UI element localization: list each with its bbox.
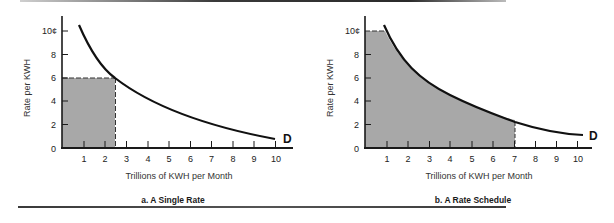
chart-a-ytick-4: 4: [51, 96, 56, 106]
chart-b-xtick-5: 5: [469, 154, 474, 164]
chart-b-xtick-7: 7: [512, 154, 517, 164]
chart-b-xtick-10: 10: [573, 154, 583, 164]
chart-b-ytick-2: 2: [354, 120, 359, 130]
chart-b-xtick-3: 3: [427, 154, 432, 164]
chart-a-xtick-8: 8: [230, 154, 235, 164]
chart-b-x-axis-title: Trillions of KWH per Month: [425, 171, 532, 181]
chart-b-xtick-1: 1: [384, 154, 389, 164]
chart-a-x-tick-labels: 1 2 3 4 5 6 7 8 9 10: [81, 154, 281, 164]
chart-a-xtick-3: 3: [124, 154, 129, 164]
figure-canvas: 10¢ 8 6 4 2 0 1 2 3 4 5 6 7 8 9 10 D Rat…: [0, 0, 614, 223]
chart-a-curve-label: D: [283, 132, 292, 146]
chart-a-xtick-6: 6: [188, 154, 193, 164]
chart-a-xtick-4: 4: [145, 154, 150, 164]
chart-a-ytick-0: 0: [51, 144, 56, 154]
chart-b-xtick-6: 6: [490, 154, 495, 164]
chart-a-xtick-2: 2: [102, 154, 107, 164]
chart-b-caption: b. A Rate Schedule: [435, 195, 512, 205]
chart-b-x-tick-labels: 1 2 3 4 5 6 7 8 9 10: [384, 154, 583, 164]
chart-a-ytick-2: 2: [51, 120, 56, 130]
bottom-rule: [18, 206, 506, 208]
chart-a-ytick-6: 6: [51, 73, 56, 83]
chart-a-xtick-5: 5: [166, 154, 171, 164]
chart-b-y-axis-title: Rate per KWH: [325, 59, 335, 117]
chart-a-caption: a. A Single Rate: [141, 195, 205, 205]
chart-b-ytick-10: 10¢: [345, 26, 360, 36]
chart-a-xtick-7: 7: [209, 154, 214, 164]
chart-a-x-axis-title: Trillions of KWH per Month: [125, 171, 232, 181]
chart-b-xtick-4: 4: [447, 154, 452, 164]
chart-b-xtick-2: 2: [405, 154, 410, 164]
chart-b-ytick-6: 6: [354, 73, 359, 83]
chart-a-shaded-revenue: [62, 78, 115, 148]
chart-b-curve-label: D: [589, 129, 598, 143]
chart-b-ytick-8: 8: [354, 50, 359, 60]
chart-b-ytick-4: 4: [354, 96, 359, 106]
chart-a-xtick-9: 9: [251, 154, 256, 164]
chart-b-xtick-8: 8: [533, 154, 538, 164]
chart-b-rate-schedule: 10¢ 8 6 4 2 0 1 2 3 4 5 6 7 8 9 10 D Rat…: [325, 16, 598, 205]
chart-a-xtick-1: 1: [81, 154, 86, 164]
chart-a-ytick-8: 8: [51, 50, 56, 60]
chart-b-xtick-9: 9: [554, 154, 559, 164]
chart-b-ytick-0: 0: [354, 144, 359, 154]
chart-a-xtick-10: 10: [271, 154, 281, 164]
chart-a-y-axis-title: Rate per KWH: [22, 59, 32, 117]
chart-a-single-rate: 10¢ 8 6 4 2 0 1 2 3 4 5 6 7 8 9 10 D Rat…: [22, 16, 293, 205]
chart-a-ytick-10: 10¢: [42, 26, 57, 36]
